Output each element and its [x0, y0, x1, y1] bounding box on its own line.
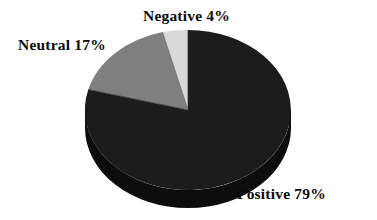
pie-label-positive: Positive 79%	[237, 186, 326, 202]
pie-label-neutral: Neutral 17%	[18, 37, 106, 53]
pie-top-face	[85, 30, 291, 190]
pie-chart-figure: Negative 4% Neutral 17% Positive 79%	[0, 0, 377, 220]
pie-label-negative: Negative 4%	[143, 8, 230, 24]
